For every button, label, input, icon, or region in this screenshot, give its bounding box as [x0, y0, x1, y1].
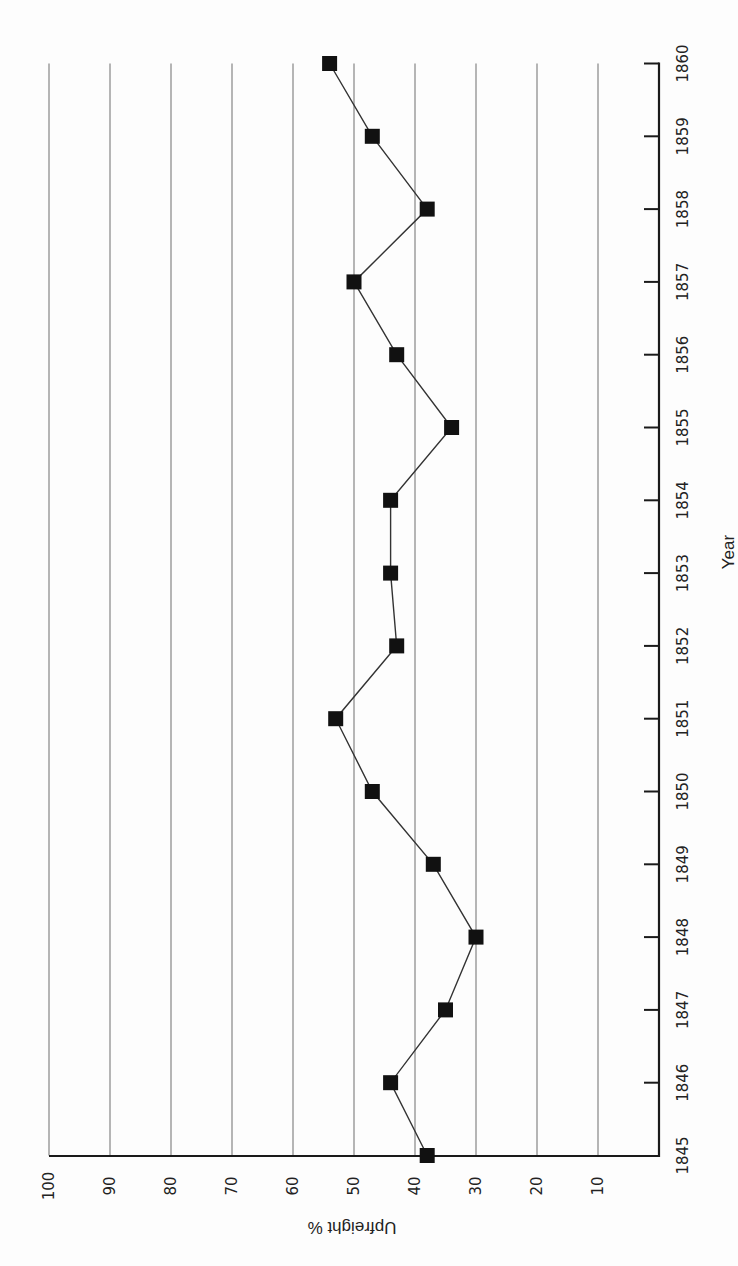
x-tick-label: 1846: [674, 1064, 692, 1102]
y-tick-label: 30: [467, 1176, 485, 1195]
y-tick-label: 100: [40, 1172, 58, 1201]
x-tick-label: 1859: [674, 117, 692, 155]
x-tick-label: 1853: [674, 554, 692, 592]
x-tick-label: 1847: [674, 991, 692, 1029]
series-line: [330, 64, 476, 1156]
data-point-square-marker: [347, 274, 362, 289]
y-tick-label: 70: [223, 1176, 241, 1195]
x-tick-label: 1851: [674, 700, 692, 738]
data-point-square-marker: [365, 129, 380, 144]
x-tick-label: 1845: [674, 1136, 692, 1174]
x-tick-label: 1857: [674, 263, 692, 301]
data-point-square-marker: [389, 347, 404, 362]
data-point-square-marker: [438, 1002, 453, 1017]
x-tick-label: 1852: [674, 627, 692, 665]
x-tick-label: 1850: [674, 772, 692, 810]
y-tick-label: 60: [284, 1176, 302, 1195]
data-point-square-marker: [389, 638, 404, 653]
x-tick-label: 1854: [674, 481, 692, 519]
data-point-square-marker: [444, 420, 459, 435]
x-tick-label: 1855: [674, 408, 692, 446]
upfreight-series: [322, 56, 483, 1163]
data-point-square-marker: [322, 56, 337, 71]
data-point-square-marker: [328, 711, 343, 726]
data-point-square-marker: [420, 202, 435, 217]
gridlines: [49, 64, 598, 1156]
y-tick-label: 20: [528, 1176, 546, 1195]
x-tick-label: 1848: [674, 918, 692, 956]
x-tick-label: 1849: [674, 845, 692, 883]
y-tick-label: 40: [406, 1176, 424, 1195]
x-axis-title: Year: [719, 534, 738, 569]
x-tick-label: 1856: [674, 336, 692, 374]
x-tick-label: 1860: [674, 44, 692, 82]
y-axis-title: Upfreight %: [308, 1218, 397, 1237]
x-tick-label: 1858: [674, 190, 692, 228]
y-tick-label: 10: [589, 1176, 607, 1195]
upfreight-tick-labels: 102030405060708090100: [40, 1172, 607, 1201]
data-point-square-marker: [383, 566, 398, 581]
data-point-square-marker: [383, 1075, 398, 1090]
data-point-square-marker: [365, 784, 380, 799]
data-point-square-marker: [420, 1148, 435, 1163]
y-tick-label: 50: [345, 1176, 363, 1195]
data-point-square-marker: [383, 493, 398, 508]
y-tick-label: 80: [162, 1176, 180, 1195]
y-tick-label: 90: [101, 1176, 119, 1195]
data-point-square-marker: [469, 930, 484, 945]
line-chart: 102030405060708090100 184518461847184818…: [0, 0, 738, 1266]
data-point-square-marker: [426, 857, 441, 872]
year-tick-labels: 1845184618471848184918501851185218531854…: [674, 44, 692, 1174]
